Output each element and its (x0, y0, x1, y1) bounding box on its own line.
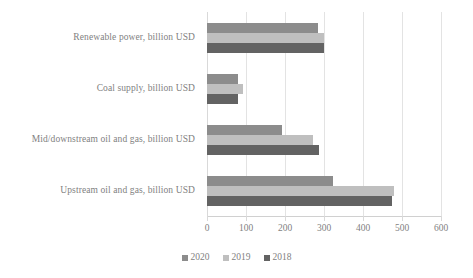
bar-2019-renewable-power (207, 33, 324, 43)
bar-group-upstream-oil-and-gas (207, 165, 441, 216)
x-axis-tick-labels: 0100200300400500600 (207, 222, 441, 236)
x-tick-label-0: 0 (205, 222, 210, 235)
x-tick-label-500: 500 (395, 222, 409, 235)
bar-2018-mid-downstream-oil-and-gas (207, 145, 319, 155)
gridline-600 (441, 12, 442, 216)
x-tick-label-400: 400 (356, 222, 370, 235)
bar-group-renewable-power (207, 12, 441, 63)
x-tick-500 (402, 216, 403, 221)
x-tick-0 (207, 216, 208, 221)
legend-label-2018: 2018 (273, 252, 292, 263)
chart-legend: 2020 2019 2018 (0, 252, 473, 263)
legend-swatch-2018-icon (264, 255, 270, 261)
bar-group-coal-supply (207, 63, 441, 114)
x-tick-400 (363, 216, 364, 221)
bar-2020-renewable-power (207, 23, 318, 33)
bar-2020-coal-supply (207, 74, 238, 84)
bar-2020-upstream-oil-and-gas (207, 176, 333, 186)
x-tick-300 (324, 216, 325, 221)
legend-swatch-2020-icon (182, 255, 188, 261)
category-label-upstream-oil-and-gas: Upstream oil and gas, billion USD (0, 165, 201, 216)
bar-2018-upstream-oil-and-gas (207, 196, 392, 206)
bar-2018-renewable-power (207, 43, 324, 53)
legend-item-2019: 2019 (223, 252, 251, 263)
plot-area (207, 12, 441, 216)
x-tick-100 (246, 216, 247, 221)
bar-2018-coal-supply (207, 94, 238, 104)
legend-label-2020: 2020 (191, 252, 210, 263)
legend-item-2018: 2018 (264, 252, 292, 263)
bar-group-mid-downstream-oil-and-gas (207, 114, 441, 165)
x-tick-label-100: 100 (239, 222, 253, 235)
legend-label-2019: 2019 (232, 252, 251, 263)
y-axis-category-labels: Renewable power, billion USD Coal supply… (0, 12, 201, 216)
bar-2019-mid-downstream-oil-and-gas (207, 135, 313, 145)
bar-2019-upstream-oil-and-gas (207, 186, 394, 196)
legend-swatch-2019-icon (223, 255, 229, 261)
x-tick-label-600: 600 (434, 222, 448, 235)
x-tick-label-200: 200 (278, 222, 292, 235)
bar-2019-coal-supply (207, 84, 243, 94)
x-axis-ticks (207, 216, 441, 221)
bar-chart: Renewable power, billion USD Coal supply… (0, 0, 473, 278)
category-label-mid-downstream-oil-and-gas: Mid/downstream oil and gas, billion USD (0, 114, 201, 165)
bar-groups (207, 12, 441, 216)
category-label-renewable-power: Renewable power, billion USD (0, 12, 201, 63)
x-tick-200 (285, 216, 286, 221)
category-label-coal-supply: Coal supply, billion USD (0, 63, 201, 114)
x-tick-label-300: 300 (317, 222, 331, 235)
x-tick-600 (441, 216, 442, 221)
legend-item-2020: 2020 (182, 252, 210, 263)
bar-2020-mid-downstream-oil-and-gas (207, 125, 282, 135)
